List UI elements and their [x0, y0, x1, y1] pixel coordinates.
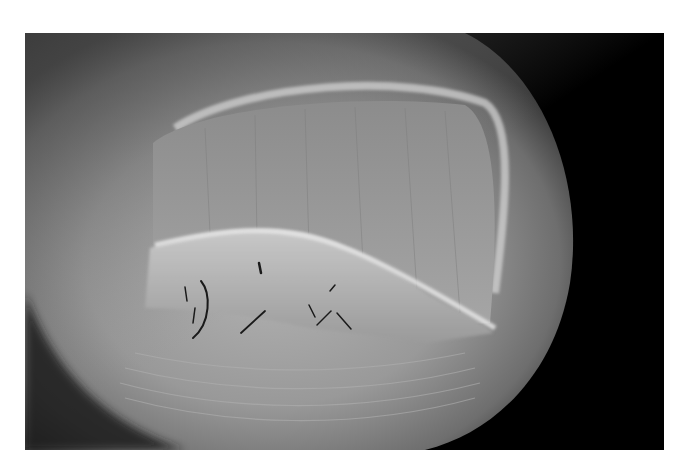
photo-render	[25, 33, 664, 450]
fingertip-photo	[25, 33, 664, 450]
